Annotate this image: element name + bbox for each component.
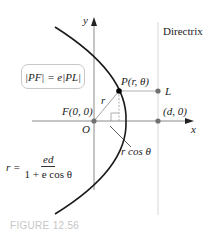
- point-p: [116, 88, 122, 94]
- polar-equation: r = ed 1 + e cos θ: [6, 153, 72, 180]
- point-p-label: P(r, θ): [121, 76, 149, 87]
- point-d: [155, 118, 160, 123]
- origin-label: O: [82, 124, 90, 135]
- polar-equation-fraction: ed 1 + e cos θ: [24, 153, 72, 180]
- segment-rcos-label: r cos θ: [121, 146, 151, 157]
- polar-equation-denominator: 1 + e cos θ: [24, 167, 72, 180]
- boxed-equation: |PF| = e|PL|: [21, 64, 85, 89]
- segment-fp: [94, 91, 119, 121]
- point-l: [155, 88, 160, 93]
- point-origin: [91, 118, 96, 123]
- conic-polar-figure: Directrix y x P(r, θ) L F(0, 0) O (d, 0)…: [0, 0, 208, 234]
- point-f-label: F(0, 0): [62, 106, 93, 117]
- polar-equation-numerator: ed: [41, 153, 55, 167]
- right-angle-marker: [111, 113, 119, 121]
- directrix-label: Directrix: [163, 26, 203, 37]
- figure-caption: FIGURE 12.56: [10, 220, 79, 231]
- y-axis-arrow-icon: [91, 17, 97, 26]
- point-l-label: L: [165, 86, 171, 97]
- rcos-leader-line: [110, 126, 131, 147]
- segment-r-label: r: [101, 95, 105, 106]
- y-axis-label: y: [83, 15, 88, 26]
- x-axis-label: x: [191, 124, 196, 135]
- point-d-label: (d, 0): [163, 106, 187, 117]
- polar-equation-lhs: r =: [6, 161, 20, 173]
